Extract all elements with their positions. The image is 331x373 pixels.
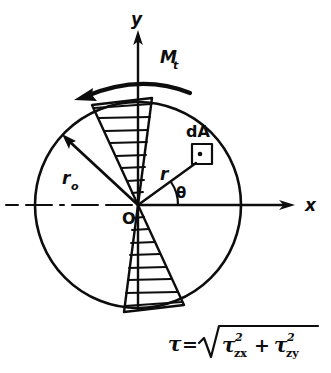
formula-lhs-tau: τ xyxy=(168,332,182,356)
origin-label: O xyxy=(122,209,136,228)
lower-wedge-hatching xyxy=(125,217,182,306)
formula-term2-subscript: zy xyxy=(286,347,299,360)
formula-term2-superscript: 2 xyxy=(286,331,295,344)
formula-term1-subscript: zx xyxy=(234,347,247,360)
torsion-figure: y x M t xyxy=(0,0,331,373)
shear-stress-formula: τ = τ zx 2 + τ zy 2 xyxy=(168,326,318,360)
formula-term1-superscript: 2 xyxy=(234,331,243,344)
upper-wedge-hatching xyxy=(94,104,151,193)
area-element-label: dA xyxy=(186,122,210,141)
outer-radius-arrow xyxy=(62,134,138,205)
x-axis-label: x xyxy=(304,195,317,215)
x-axis xyxy=(138,200,295,210)
area-element-dA xyxy=(192,144,212,164)
outer-radius-label-subscript: o xyxy=(71,180,79,193)
y-axis-label: y xyxy=(131,9,143,29)
radius-label: r xyxy=(160,164,170,184)
torque-arc-arrow xyxy=(74,84,190,101)
formula-equals: = xyxy=(182,333,198,355)
torque-label-subscript: t xyxy=(173,59,179,72)
formula-plus: + xyxy=(254,334,270,356)
torsion-diagram-svg: y x M t xyxy=(0,0,331,373)
theta-angle-label: θ xyxy=(176,184,186,202)
